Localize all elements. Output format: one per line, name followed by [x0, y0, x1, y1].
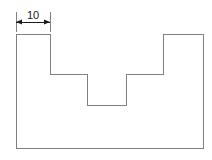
- technical-drawing-canvas: 10: [0, 0, 212, 160]
- drawing-svg: 10: [0, 0, 212, 160]
- stepped-part-outline: [16, 34, 203, 148]
- dimension-value-label: 10: [27, 9, 39, 21]
- dimension-arrow-right-icon: [44, 20, 50, 25]
- dimension-arrow-left-icon: [16, 20, 22, 25]
